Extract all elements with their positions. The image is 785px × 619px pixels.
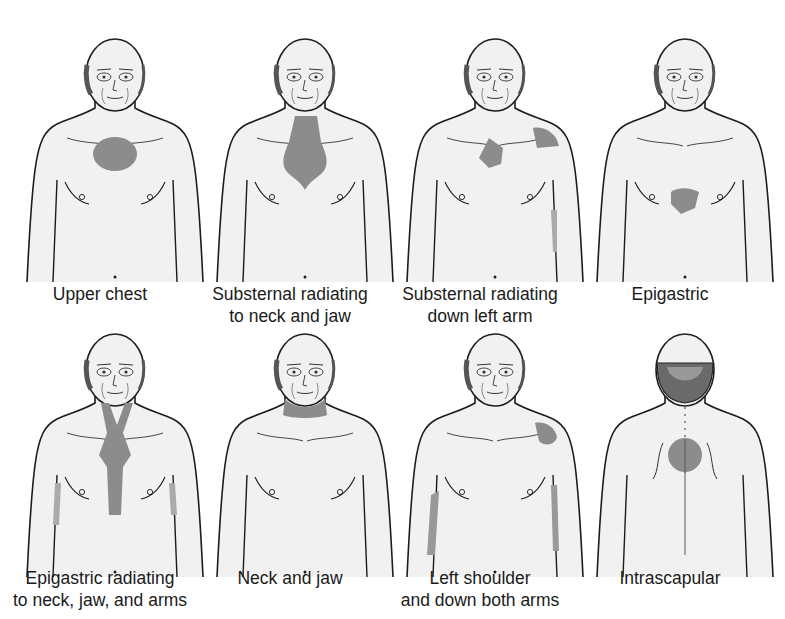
panel-neck-jaw: Neck and jaw	[195, 315, 385, 615]
caption: Intrascapular	[555, 567, 785, 589]
body-figure-front	[385, 315, 605, 580]
body-figure-front	[5, 315, 225, 580]
caption: Epigastric	[555, 283, 785, 305]
panel-substernal-left-arm: Substernal radiating down left arm	[385, 20, 575, 320]
body-figure-front	[385, 20, 605, 285]
body-figure-front	[195, 20, 415, 285]
panel-epigastric-neck-jaw-arms: Epigastric radiating to neck, jaw, and a…	[5, 315, 195, 615]
body-figure-front	[575, 20, 785, 285]
panel-substernal-neck-jaw: Substernal radiating to neck and jaw	[195, 20, 385, 320]
pain-area-upper-chest	[93, 137, 137, 171]
panel-upper-chest: Upper chest	[5, 20, 195, 320]
body-figure-front	[5, 20, 225, 285]
body-figure-back	[575, 315, 785, 580]
panel-left-shoulder-both-arms: Left shoulder and down both arms	[385, 315, 575, 615]
panel-epigastric: Epigastric	[575, 20, 765, 320]
panel-intrascapular: Intrascapular	[575, 315, 765, 615]
body-figure-front	[195, 315, 415, 580]
